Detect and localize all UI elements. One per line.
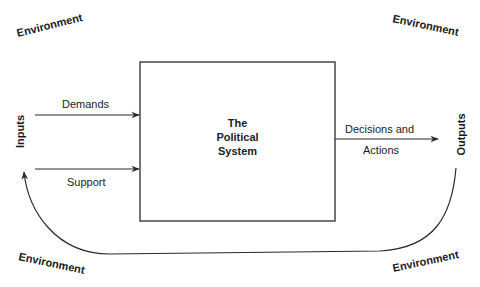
support-label: Support [67,177,106,188]
system-title: The Political System [140,62,335,221]
system-title-line2: Political [216,130,258,144]
system-title-line1: The [228,116,248,130]
inputs-label: Inputs [15,115,26,148]
system-title-line3: System [218,144,257,158]
decisions-label-line1: Decisions and [345,124,414,135]
decisions-label-line2: Actions [363,145,399,156]
demands-label: Demands [62,99,109,110]
outputs-label: Outputs [456,113,467,155]
